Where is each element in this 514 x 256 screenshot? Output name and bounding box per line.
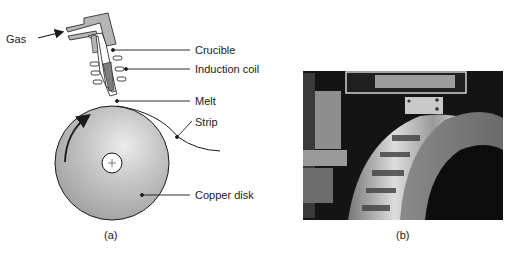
- label-crucible: Crucible: [195, 44, 235, 56]
- caption-b: (b): [396, 229, 409, 241]
- caption-a: (a): [104, 229, 117, 241]
- label-induction-coil: Induction coil: [195, 63, 259, 75]
- label-gas: Gas: [6, 33, 26, 45]
- label-strip: Strip: [195, 116, 218, 128]
- panel-b-photo: [303, 71, 503, 220]
- gas-inlet-icon: [66, 13, 116, 46]
- panel-a: [38, 13, 220, 220]
- melt-spinning-diagram: [0, 0, 514, 256]
- gas-arrow-icon: [38, 32, 62, 38]
- label-melt: Melt: [195, 95, 216, 107]
- label-copper-disk: Copper disk: [195, 189, 254, 201]
